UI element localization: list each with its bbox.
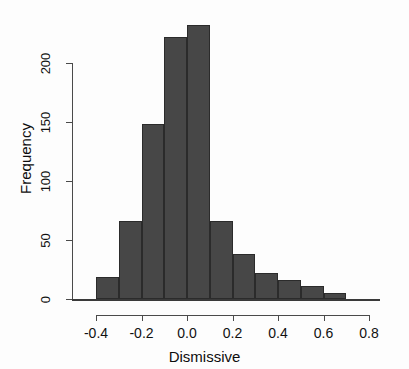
x-axis-tick: [278, 315, 279, 321]
x-axis-tick: [142, 315, 143, 321]
histogram-bar: [96, 277, 119, 299]
x-axis-tick-label: 0.2: [213, 325, 253, 341]
x-axis-tick-label: 0.4: [258, 325, 298, 341]
histogram-bar: [187, 25, 210, 299]
baseline: [72, 299, 380, 301]
histogram-bar: [119, 221, 142, 299]
histogram-bar: [142, 124, 165, 299]
x-axis-tick: [187, 315, 188, 321]
x-axis-tick: [324, 315, 325, 321]
x-axis-tick-label: -0.4: [76, 325, 116, 341]
x-axis-tick-label: 0.0: [167, 325, 207, 341]
x-axis-tick-label: -0.2: [122, 325, 162, 341]
x-axis-tick-label: 0.6: [304, 325, 344, 341]
x-axis-tick-label: 0.8: [349, 325, 389, 341]
x-axis-tick: [369, 315, 370, 321]
histogram-bar: [301, 286, 324, 299]
histogram-bar: [164, 37, 187, 299]
histogram-bar: [278, 280, 301, 299]
histogram-bar: [233, 254, 256, 299]
histogram-bar: [255, 273, 278, 299]
x-axis-title: Dismissive: [0, 348, 409, 365]
histogram-bar: [210, 221, 233, 299]
histogram-plot: 050100150200 Frequency -0.4-0.20.00.20.4…: [0, 0, 409, 369]
x-axis-tick: [96, 315, 97, 321]
x-axis-tick: [233, 315, 234, 321]
bars-layer: [0, 0, 409, 369]
